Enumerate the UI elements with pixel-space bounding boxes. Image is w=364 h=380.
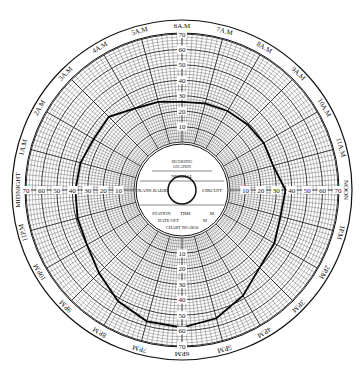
scale-tick-label: 30 — [179, 92, 187, 100]
circular-chart: 1020304050607010203040506070102030405060… — [0, 0, 364, 380]
time-label: 6P.M — [174, 350, 189, 358]
scale-tick-label: 60 — [179, 327, 187, 335]
scale-tick-label: 30 — [179, 281, 187, 289]
scale-tick-label: 70 — [179, 343, 187, 351]
scale-tick-label: 40 — [288, 187, 296, 195]
scale-tick-label: 10 — [115, 187, 123, 195]
scale-tick-label: 10 — [242, 187, 250, 195]
scale-tick-label: 20 — [179, 265, 187, 273]
scale-tick-label: 70 — [179, 31, 187, 39]
scale-tick-label: 50 — [179, 61, 187, 69]
scale-tick-label: 10 — [179, 250, 187, 258]
center-label: RECORDING LOCATION NORMAL TRANS.RADIO CI… — [135, 144, 228, 236]
svg-text:M: M — [203, 218, 207, 223]
scale-tick-label: 50 — [304, 187, 312, 195]
scale-tick-label: 60 — [179, 46, 187, 54]
scale-tick-label: 40 — [69, 187, 77, 195]
svg-text:M.: M. — [210, 211, 215, 216]
scale-tick-label: 70 — [23, 187, 31, 195]
scale-tick-label: 70 — [335, 187, 343, 195]
date-off-label: DATE OFF — [158, 218, 179, 223]
scale-tick-label: 20 — [179, 108, 187, 116]
scale-tick-label: 40 — [179, 296, 187, 304]
circuit-label: CIRCUIT — [202, 188, 222, 193]
scale-tick-label: 30 — [273, 187, 281, 195]
scale-tick-label: 40 — [179, 77, 187, 85]
scale-tick-label: 60 — [38, 187, 46, 195]
scale-tick-label: 60 — [319, 187, 327, 195]
station-label: STATION — [152, 211, 171, 216]
scale-tick-label: 50 — [179, 312, 187, 320]
scale-tick-label: 10 — [179, 123, 187, 131]
scale-tick-label: 50 — [53, 187, 61, 195]
center-hole — [168, 176, 196, 204]
scale-tick-label: 30 — [84, 187, 92, 195]
scale-tick-label: 20 — [257, 187, 265, 195]
trans-radio-label: TRANS.RADIO — [135, 188, 169, 193]
location-label: LOCATION — [173, 165, 191, 169]
normal-label: NORMAL — [171, 174, 193, 179]
time-label: NOON — [342, 180, 350, 200]
time-label: 6A.M — [174, 22, 191, 30]
time-label: TIME — [180, 211, 191, 216]
recording-label: RECORDING — [172, 160, 193, 164]
chart-number-label: CHART NO.3810 — [166, 225, 199, 230]
time-label: MIDNIGHT — [14, 172, 22, 208]
scale-tick-label: 20 — [100, 187, 108, 195]
